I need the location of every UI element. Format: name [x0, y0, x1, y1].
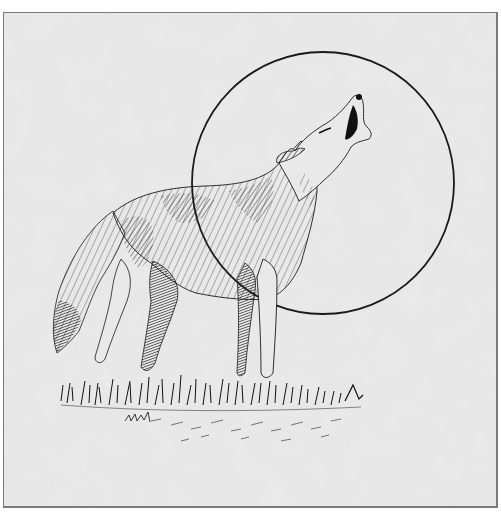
- illustration-frame: [3, 12, 498, 508]
- coyote-illustration: [4, 13, 496, 506]
